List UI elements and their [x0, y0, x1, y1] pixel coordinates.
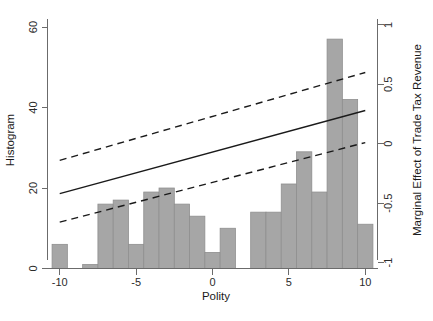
histogram-bar	[281, 184, 296, 269]
x-axis-title: Polity	[202, 290, 230, 302]
bottom-tick-label: 5	[286, 276, 292, 288]
bottom-tick-label: -10	[52, 276, 68, 288]
histogram-bar	[174, 204, 189, 268]
right-tick-label: -1	[382, 258, 394, 268]
histogram-bar	[220, 228, 235, 268]
histogram-bar	[266, 212, 281, 268]
histogram-bar	[358, 224, 373, 268]
bottom-tick-label: -5	[131, 276, 141, 288]
y-axis-title: Histogram	[4, 114, 16, 166]
left-tick-label: 0	[27, 265, 39, 271]
histogram-bar	[327, 39, 342, 268]
histogram-bar	[128, 244, 143, 268]
right-tick-label: 0	[382, 141, 394, 147]
histogram-bar	[144, 192, 159, 268]
right-tick-label: -0.5	[382, 194, 394, 213]
chart-background	[0, 0, 433, 321]
left-tick-label: 20	[27, 182, 39, 194]
bottom-tick-label: 10	[359, 276, 371, 288]
left-tick-label: 60	[27, 21, 39, 33]
chart-figure: 0204060 -1-0.500.51 -10-50510 Polity His…	[0, 0, 433, 321]
bottom-tick-label: 0	[209, 276, 215, 288]
marginal-effect-histogram-chart: 0204060 -1-0.500.51 -10-50510 Polity His…	[0, 0, 433, 321]
histogram-bar	[52, 244, 67, 268]
histogram-bar	[190, 216, 205, 268]
histogram-bar	[251, 212, 266, 268]
histogram-bar	[312, 192, 327, 268]
histogram-bar	[205, 252, 220, 268]
histogram-bar	[342, 99, 357, 268]
right-tick-label: 0.5	[382, 77, 394, 92]
y2-axis-title: Marginal Effect of Trade Tax Revenue	[411, 44, 423, 236]
histogram-bar	[159, 188, 174, 268]
right-tick-label: 1	[382, 22, 394, 28]
histogram-bar	[297, 152, 312, 269]
histogram-bar	[83, 264, 98, 268]
histogram-bar	[113, 200, 128, 268]
histogram-bar	[98, 204, 113, 268]
left-tick-label: 40	[27, 101, 39, 113]
